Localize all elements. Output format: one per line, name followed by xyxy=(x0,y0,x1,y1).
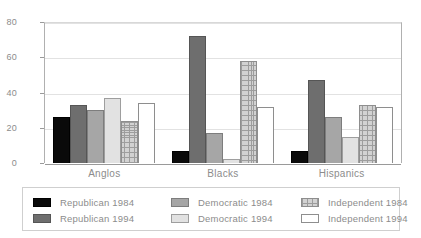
legend-item[interactable]: Republican 1994 xyxy=(33,213,134,224)
bar[interactable] xyxy=(376,107,393,163)
dark-gray-swatch xyxy=(33,214,51,223)
legend-item-label: Independent 1984 xyxy=(328,198,408,208)
x-axis-tick-label: Anglos xyxy=(45,168,164,179)
legend-item[interactable]: Independent 1994 xyxy=(301,213,408,224)
bar[interactable] xyxy=(291,151,308,163)
y-axis-tick-mark xyxy=(40,93,44,94)
bar[interactable] xyxy=(121,121,138,163)
bar[interactable] xyxy=(257,107,274,163)
legend-item[interactable]: Democratic 1984 xyxy=(171,197,273,208)
axis-baseline xyxy=(45,164,401,165)
bar[interactable] xyxy=(206,133,223,163)
y-axis-tick-mark xyxy=(40,128,44,129)
legend-item[interactable]: Independent 1984 xyxy=(301,197,408,208)
medium-gray-swatch xyxy=(171,198,189,207)
bar[interactable] xyxy=(325,117,342,163)
legend-item-label: Republican 1994 xyxy=(60,214,134,224)
bar-group xyxy=(45,22,164,163)
bar[interactable] xyxy=(138,103,155,163)
y-axis-tick-label: 40 xyxy=(0,89,17,98)
legend-item-label: Democratic 1994 xyxy=(198,214,273,224)
bar[interactable] xyxy=(308,80,325,163)
bar[interactable] xyxy=(359,105,376,163)
crosshatch-swatch xyxy=(301,198,319,207)
bar[interactable] xyxy=(70,105,87,163)
y-axis-tick-label: 80 xyxy=(0,18,17,27)
bar[interactable] xyxy=(87,110,104,163)
y-axis-tick-mark xyxy=(40,22,44,23)
y-axis-tick-label: 60 xyxy=(0,53,17,62)
bar[interactable] xyxy=(104,98,121,163)
black-swatch xyxy=(33,198,51,207)
bar-chart-figure: 020406080 AnglosBlacksHispanics Republic… xyxy=(0,0,421,238)
legend-item-label: Democratic 1984 xyxy=(198,198,273,208)
legend: Republican 1984Republican 1994Democratic… xyxy=(22,187,400,231)
bar[interactable] xyxy=(223,159,240,163)
light-gray-swatch xyxy=(171,214,189,223)
y-axis-tick-label: 20 xyxy=(0,124,17,133)
y-axis-tick-mark xyxy=(40,57,44,58)
bar-group xyxy=(282,22,401,163)
x-axis-tick-label: Blacks xyxy=(164,168,283,179)
legend-item[interactable]: Republican 1984 xyxy=(33,197,134,208)
legend-item-label: Independent 1994 xyxy=(328,214,408,224)
y-axis-tick-label: 0 xyxy=(0,159,17,168)
bar[interactable] xyxy=(342,137,359,163)
legend-item-label: Republican 1984 xyxy=(60,198,134,208)
bar[interactable] xyxy=(172,151,189,163)
bar[interactable] xyxy=(53,117,70,163)
y-axis-tick-mark xyxy=(40,163,44,164)
bar-group xyxy=(164,22,283,163)
bar[interactable] xyxy=(240,61,257,163)
legend-item[interactable]: Democratic 1994 xyxy=(171,213,273,224)
bars-layer xyxy=(45,22,401,163)
x-axis-tick-label: Hispanics xyxy=(282,168,401,179)
bar[interactable] xyxy=(189,36,206,163)
white-swatch xyxy=(301,214,319,223)
